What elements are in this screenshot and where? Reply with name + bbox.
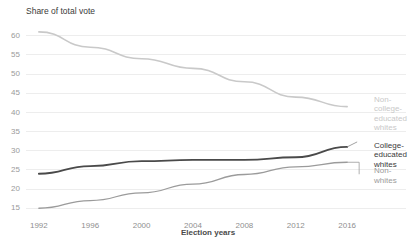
y-axis-tick-label: 20 — [11, 184, 20, 193]
x-axis-tick-label: 2012 — [287, 221, 305, 230]
leader-line-non-whites — [347, 162, 359, 174]
x-axis-title: Election years — [181, 228, 236, 237]
x-axis-tick-label: 2000 — [133, 221, 151, 230]
y-axis-tick-label: 55 — [11, 50, 20, 59]
y-axis-tick-label: 50 — [11, 69, 20, 78]
legend-label-non-college-educated-whites: Non- college- educated whites — [374, 95, 407, 133]
y-axis-tick-labels: 15202530354045505560 — [11, 31, 20, 213]
series-line-0 — [39, 32, 347, 107]
y-axis-tick-label: 60 — [11, 31, 20, 40]
y-axis-tick-label: 40 — [11, 108, 20, 117]
legend-leader-lines — [347, 142, 359, 174]
x-axis-tick-label: 1992 — [30, 221, 48, 230]
legend-label-college-educated-whites: College- educated whites — [374, 141, 407, 170]
y-axis-tick-label: 45 — [11, 88, 20, 97]
series-line-2 — [39, 162, 347, 208]
y-axis-tick-label: 30 — [11, 146, 20, 155]
legend-label-non-whites: Non- whites — [374, 166, 397, 185]
y-axis-tick-label: 25 — [11, 165, 20, 174]
y-axis-tick-label: 35 — [11, 127, 20, 136]
x-axis-tick-label: 2008 — [235, 221, 253, 230]
chart-container: 15202530354045505560 1992199620002004200… — [0, 0, 414, 242]
line-chart: 15202530354045505560 1992199620002004200… — [0, 0, 414, 242]
y-axis-tick-label: 15 — [11, 203, 20, 212]
data-series-group — [39, 32, 347, 208]
leader-line-college-educated-whites — [347, 142, 357, 147]
gridlines-group — [26, 36, 406, 209]
chart-title: Share of total vote — [26, 6, 95, 16]
x-axis-tick-label: 1996 — [81, 221, 99, 230]
x-axis-tick-label: 2016 — [338, 221, 356, 230]
